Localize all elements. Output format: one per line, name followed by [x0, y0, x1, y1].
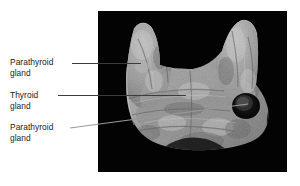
gland-body — [98, 11, 287, 172]
label-parathyroid-gland-upper: Parathyroid gland — [10, 57, 53, 78]
label-thyroid-gland: Thyroid gland — [10, 90, 38, 111]
label-line-2: gland — [10, 68, 53, 79]
label-parathyroid-gland-lower: Parathyroid gland — [10, 122, 53, 143]
label-line-1: Thyroid — [10, 90, 38, 100]
specimen-photograph — [98, 11, 287, 172]
parathyroid-nodule-upper — [135, 61, 149, 73]
parathyroid-cavity — [232, 93, 260, 119]
anatomy-figure: Parathyroid gland Thyroid gland Parathyr… — [0, 0, 300, 186]
label-line-2: gland — [10, 133, 53, 144]
label-line-1: Parathyroid — [10, 57, 53, 67]
label-line-1: Parathyroid — [10, 122, 53, 132]
thyroid-specimen-illustration — [98, 11, 287, 172]
label-line-2: gland — [10, 101, 38, 112]
